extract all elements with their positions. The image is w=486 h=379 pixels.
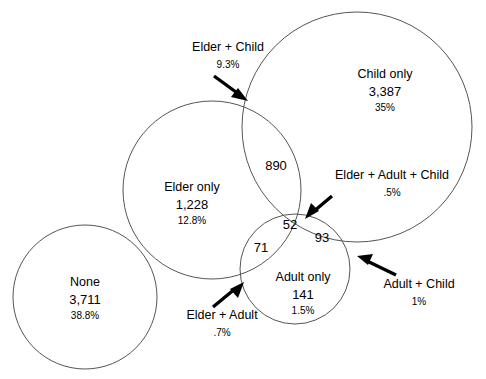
arrow-elder-child bbox=[214, 76, 248, 101]
callout-elder-adult-percent: .7% bbox=[186, 327, 257, 339]
circle-child bbox=[242, 12, 472, 242]
region-number-adult-child: 93 bbox=[315, 230, 329, 245]
label-child-only-name: Child only bbox=[358, 67, 413, 82]
label-adult-only-percent: 1.5% bbox=[276, 305, 331, 317]
callout-elder-adult-child-percent: .5% bbox=[335, 187, 449, 199]
callout-elder-child-name: Elder + Child bbox=[192, 40, 264, 55]
callout-elder-adult: Elder + Adult .7% bbox=[186, 308, 257, 339]
callout-elder-adult-child-name: Elder + Adult + Child bbox=[335, 168, 449, 183]
label-elder-only-percent: 12.8% bbox=[164, 215, 220, 227]
arrow-adult-child bbox=[357, 254, 396, 275]
label-elder-only-count: 1,228 bbox=[164, 197, 220, 212]
label-none-count: 3,711 bbox=[69, 292, 101, 307]
label-child-only: Child only 3,387 35% bbox=[358, 67, 413, 114]
callout-elder-adult-child: Elder + Adult + Child .5% bbox=[335, 168, 449, 199]
callout-elder-adult-name: Elder + Adult bbox=[186, 308, 257, 323]
arrow-elder-adult-child bbox=[305, 196, 332, 219]
label-none-percent: 38.8% bbox=[69, 310, 101, 322]
region-number-elder-child: 890 bbox=[265, 158, 287, 173]
callout-adult-child-percent: 1% bbox=[383, 296, 454, 308]
label-child-only-count: 3,387 bbox=[358, 84, 413, 99]
callout-elder-child: Elder + Child 9.3% bbox=[192, 40, 264, 71]
region-number-elder-adult-child: 52 bbox=[283, 217, 297, 232]
label-elder-only-name: Elder only bbox=[164, 180, 220, 195]
label-child-only-percent: 35% bbox=[358, 102, 413, 114]
region-number-elder-adult: 71 bbox=[254, 240, 268, 255]
callout-elder-child-percent: 9.3% bbox=[192, 59, 264, 71]
label-none-name: None bbox=[69, 275, 101, 290]
label-elder-only: Elder only 1,228 12.8% bbox=[164, 180, 220, 227]
venn-diagram-canvas: None 3,711 38.8% Elder only 1,228 12.8% … bbox=[0, 0, 486, 379]
label-adult-only-count: 141 bbox=[276, 287, 331, 302]
arrow-elder-adult bbox=[213, 282, 244, 307]
label-adult-only-name: Adult only bbox=[276, 270, 331, 285]
callout-adult-child: Adult + Child 1% bbox=[383, 277, 454, 308]
label-none: None 3,711 38.8% bbox=[69, 275, 101, 322]
callout-adult-child-name: Adult + Child bbox=[383, 277, 454, 292]
label-adult-only: Adult only 141 1.5% bbox=[276, 270, 331, 317]
